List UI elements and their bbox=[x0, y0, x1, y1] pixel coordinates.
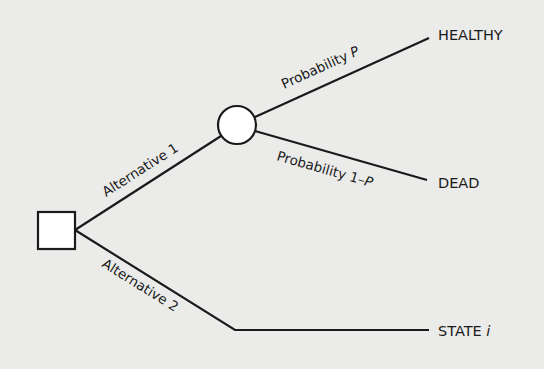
decision-node bbox=[38, 212, 75, 249]
label-alternative-2: Alternative 2 bbox=[99, 255, 181, 315]
outcome-healthy: HEALTHY bbox=[438, 27, 503, 43]
outcome-dead: DEAD bbox=[438, 175, 479, 191]
chance-node bbox=[218, 106, 256, 144]
edge-alternative-1 bbox=[75, 136, 221, 230]
outcome-state-i: STATE i bbox=[438, 323, 490, 339]
label-probability-p: Probability P bbox=[279, 42, 363, 92]
diagram-svg: Alternative 1 Alternative 2 Probability … bbox=[0, 0, 544, 369]
label-probability-1-minus-p: Probability 1–P bbox=[275, 148, 376, 191]
decision-tree-diagram: Alternative 1 Alternative 2 Probability … bbox=[0, 0, 544, 369]
